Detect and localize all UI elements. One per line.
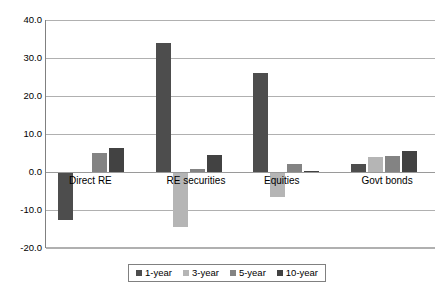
bar-group [46, 20, 144, 248]
bar [351, 164, 366, 172]
gridline [46, 248, 435, 249]
bar [402, 151, 417, 172]
bar [368, 157, 383, 172]
bar [156, 43, 171, 172]
bar-group [241, 20, 339, 248]
y-axis-tick-label: 20.0 [2, 91, 42, 101]
legend-swatch-icon [183, 270, 189, 276]
bar [253, 73, 268, 172]
bar-chart: 40.030.020.010.00.0-10.0-20.0 Direct RER… [0, 0, 441, 298]
bar [385, 156, 400, 172]
zero-line [46, 172, 435, 173]
legend-label: 3-year [192, 268, 219, 278]
bar-group [144, 20, 242, 248]
bar [92, 153, 107, 172]
plot-area [45, 20, 435, 248]
category-label: Govt bonds [362, 176, 413, 186]
legend-item: 5-year [230, 268, 266, 278]
legend-label: 10-year [286, 268, 318, 278]
y-axis: 40.030.020.010.00.0-10.0-20.0 [0, 0, 42, 298]
y-axis-tick-label: -10.0 [2, 205, 42, 215]
y-axis-tick-label: 0.0 [2, 167, 42, 177]
legend-swatch-icon [277, 270, 283, 276]
chart-legend: 1-year3-year5-year10-year [128, 264, 326, 282]
category-label: Equities [264, 176, 300, 186]
bars-layer [46, 20, 435, 248]
category-label: Direct RE [69, 176, 112, 186]
category-label: RE securities [167, 176, 226, 186]
bar [109, 148, 124, 172]
y-axis-tick-label: -20.0 [2, 243, 42, 253]
legend-swatch-icon [136, 270, 142, 276]
y-axis-tick-label: 40.0 [2, 15, 42, 25]
legend-label: 5-year [239, 268, 266, 278]
y-axis-tick-label: 10.0 [2, 129, 42, 139]
bar [287, 164, 302, 172]
legend-label: 1-year [145, 268, 172, 278]
y-axis-tick-label: 30.0 [2, 53, 42, 63]
bar-group [339, 20, 437, 248]
legend-item: 1-year [136, 268, 172, 278]
bar [207, 155, 222, 172]
legend-swatch-icon [230, 270, 236, 276]
legend-item: 10-year [277, 268, 318, 278]
legend-item: 3-year [183, 268, 219, 278]
